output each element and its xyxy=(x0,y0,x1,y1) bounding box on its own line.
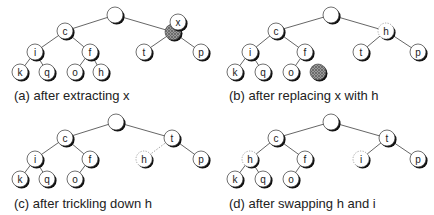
tree-node-t: t xyxy=(164,130,182,148)
node-label: t xyxy=(171,133,174,144)
caption-panel-a: (a) after extracting x xyxy=(14,88,130,103)
tree-node-o: o xyxy=(67,64,85,82)
tree-node-o: o xyxy=(67,171,85,189)
panel-a-nodes: cxiftpkqoh xyxy=(12,7,211,82)
node-label: q xyxy=(44,67,50,78)
node-label: q xyxy=(260,67,266,78)
node-label: t xyxy=(143,47,146,58)
tree-node-k: k xyxy=(227,171,245,189)
tree-node-h: h xyxy=(378,23,396,41)
tree-node-c: c xyxy=(268,23,286,41)
tree-node-p: p xyxy=(193,44,211,62)
node-label: f xyxy=(89,154,92,165)
tree-node-q: q xyxy=(255,171,273,189)
node-label: t xyxy=(360,47,363,58)
node-label: p xyxy=(198,154,204,165)
tree-node-h: h xyxy=(93,64,111,82)
tree-node-k: k xyxy=(12,171,30,189)
caption-panel-b: (b) after replacing x with h xyxy=(229,88,379,103)
node-label: f xyxy=(89,47,92,58)
node-label: p xyxy=(415,154,421,165)
node-label: c xyxy=(274,133,279,144)
node-label: h xyxy=(141,154,147,165)
node-label: i xyxy=(249,47,251,58)
node-label: f xyxy=(304,154,307,165)
tree-node-root xyxy=(323,114,341,132)
tree-node-o: o xyxy=(283,171,301,189)
tree-node-p: p xyxy=(410,44,428,62)
node-label: o xyxy=(288,67,294,78)
panel-c-nodes: ctifhpkqo xyxy=(12,114,211,189)
node-label: h xyxy=(98,67,104,78)
node-label: o xyxy=(288,174,294,185)
tree-node-h: h xyxy=(136,151,154,169)
tree-node-q: q xyxy=(39,64,57,82)
node-label: o xyxy=(72,67,78,78)
panel-b-nodes: chiftpkqo xyxy=(227,7,428,82)
tree-node-p: p xyxy=(193,151,211,169)
node-label: i xyxy=(34,154,36,165)
tree-node-c: c xyxy=(57,23,75,41)
tree-node-t: t xyxy=(379,130,397,148)
node-label: p xyxy=(415,47,421,58)
node-label: i xyxy=(360,154,362,165)
tree-node-c: c xyxy=(57,130,75,148)
tree-node-o: o xyxy=(283,64,301,82)
panel-d-nodes: cthfipkqo xyxy=(227,114,428,189)
caption-panel-c: (c) after trickling down h xyxy=(14,196,152,211)
node-label: t xyxy=(386,133,389,144)
node-label: x xyxy=(176,17,181,28)
tree-node-k: k xyxy=(12,64,30,82)
panel-b-edges xyxy=(235,15,418,72)
node-label: h xyxy=(383,26,389,37)
tree-node-p: p xyxy=(410,151,428,169)
tree-node-root xyxy=(108,114,126,132)
caption-panel-d: (d) after swapping h and i xyxy=(229,196,376,211)
tree-node-root xyxy=(323,7,341,25)
tree-node-q: q xyxy=(39,171,57,189)
tree-node-q: q xyxy=(255,64,273,82)
tree-node-c: c xyxy=(268,130,286,148)
node-label: q xyxy=(260,174,266,185)
node-label: c xyxy=(63,26,68,37)
node-label: o xyxy=(72,174,78,185)
node-label: c xyxy=(274,26,279,37)
tree-node-root xyxy=(107,7,125,25)
node-label: h xyxy=(247,154,253,165)
node-label: i xyxy=(34,47,36,58)
node-label: q xyxy=(44,174,50,185)
node-label: c xyxy=(63,133,68,144)
tree-node-slot xyxy=(310,64,328,82)
heap-diagram-canvas: cxiftpkqohchiftpkqoctifhpkqocthfipkqo xyxy=(0,0,434,215)
node-label: f xyxy=(304,47,307,58)
node-label: p xyxy=(198,47,204,58)
tree-node-k: k xyxy=(227,64,245,82)
tree-node-t: t xyxy=(136,44,154,62)
